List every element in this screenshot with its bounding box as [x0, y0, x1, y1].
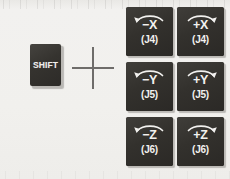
- arc-arrow-right-icon: +Z: [182, 123, 220, 144]
- axis-key-plus-x-joint-label: (J4): [192, 35, 209, 45]
- shift-key[interactable]: SHIFT: [30, 44, 61, 86]
- axis-key-minus-x-joint-label: (J4): [141, 35, 158, 45]
- axis-key-plus-y[interactable]: +Y (J5): [177, 62, 224, 111]
- arc-arrow-right-icon: +X: [182, 13, 220, 34]
- axis-key-plus-z-joint-label: (J6): [192, 145, 209, 155]
- axis-key-plus-y-joint-label: (J5): [192, 90, 209, 100]
- axis-key-plus-z[interactable]: +Z (J6): [177, 117, 224, 166]
- axis-key-minus-y-axis-label: −Y: [131, 74, 169, 87]
- scan-artifact-bottom: [0, 171, 230, 179]
- axis-key-plus-x[interactable]: +X (J4): [177, 7, 224, 56]
- axis-key-minus-x-axis-label: −X: [131, 19, 169, 32]
- plus-sign-vertical-bar: [92, 47, 94, 89]
- axis-key-minus-y-joint-label: (J5): [141, 90, 158, 100]
- axis-key-plus-x-axis-label: +X: [182, 19, 220, 32]
- axis-key-plus-z-axis-label: +Z: [182, 129, 220, 142]
- axis-key-minus-z[interactable]: −Z (J6): [126, 117, 173, 166]
- arc-arrow-left-icon: −Z: [131, 123, 169, 144]
- plus-sign-icon: [72, 47, 114, 89]
- axis-key-grid: −X (J4) +X (J4) −Y: [126, 7, 224, 172]
- arc-arrow-left-icon: −Y: [131, 68, 169, 89]
- diagram-canvas: SHIFT −X (J4) +X: [0, 0, 230, 179]
- axis-key-minus-z-joint-label: (J6): [141, 145, 158, 155]
- axis-key-minus-z-axis-label: −Z: [131, 129, 169, 142]
- shift-key-label: SHIFT: [33, 61, 58, 70]
- axis-key-minus-x[interactable]: −X (J4): [126, 7, 173, 56]
- arc-arrow-right-icon: +Y: [182, 68, 220, 89]
- arc-arrow-left-icon: −X: [131, 13, 169, 34]
- axis-key-plus-y-axis-label: +Y: [182, 74, 220, 87]
- axis-key-minus-y[interactable]: −Y (J5): [126, 62, 173, 111]
